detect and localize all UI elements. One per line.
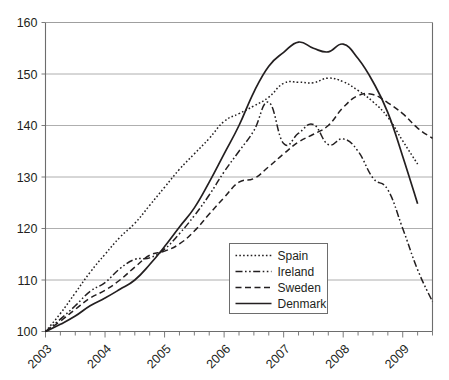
y-tick-label-160: 160 (17, 16, 38, 30)
y-tick-label-100: 100 (17, 325, 38, 339)
y-tick-label-120: 120 (17, 222, 38, 236)
chart-background (0, 0, 449, 380)
legend-label-denmark: Denmark (278, 297, 328, 311)
line-chart: 100110120130140150160 200320042005200620… (0, 0, 449, 380)
y-tick-label-150: 150 (17, 68, 38, 82)
y-tick-label-140: 140 (17, 119, 38, 133)
legend-label-spain: Spain (278, 249, 309, 263)
chart-legend: SpainIrelandSwedenDenmark (230, 244, 328, 314)
legend-label-sweden: Sweden (278, 281, 321, 295)
legend-label-ireland: Ireland (278, 265, 315, 279)
y-tick-label-130: 130 (17, 171, 38, 185)
chart-canvas: 100110120130140150160 200320042005200620… (0, 0, 449, 380)
y-tick-label-110: 110 (18, 274, 38, 288)
